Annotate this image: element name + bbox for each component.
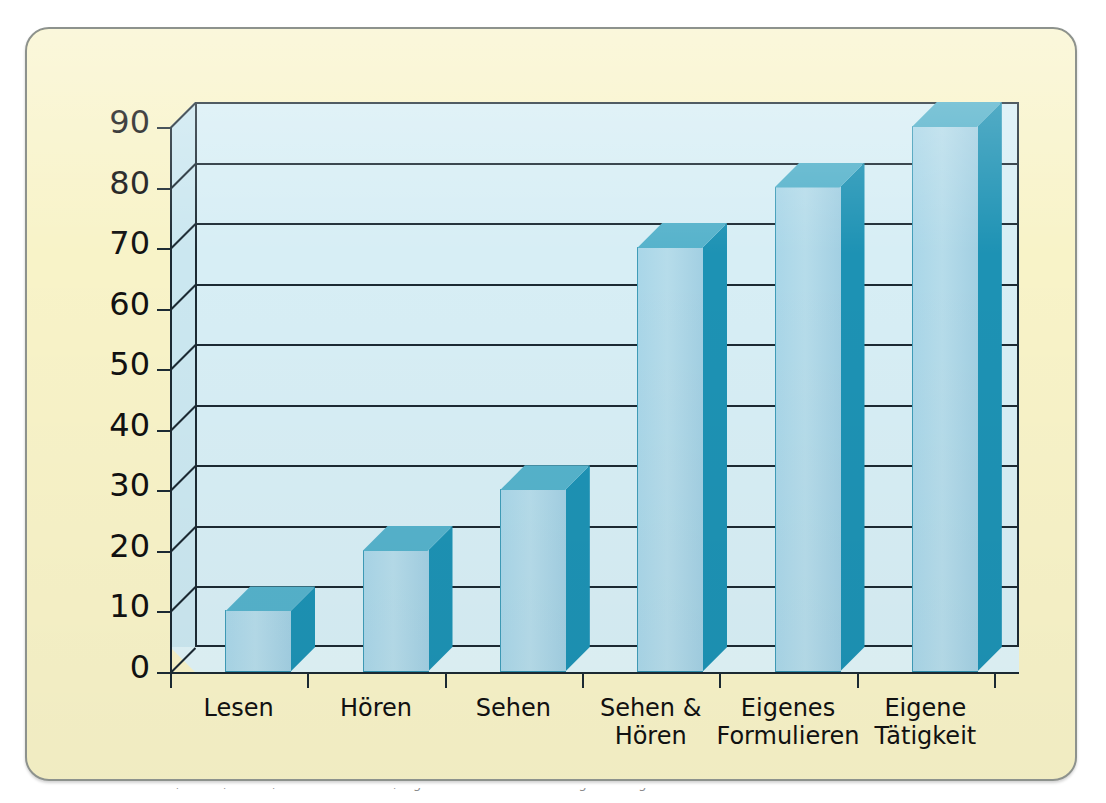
y-axis-tick-label: 80	[45, 167, 150, 199]
bar-side-face	[428, 526, 453, 672]
y-axis-tick	[157, 369, 170, 371]
gridline	[195, 284, 1019, 286]
y-axis-tick	[157, 490, 170, 492]
bar-front-face	[225, 610, 291, 672]
bar-column	[912, 102, 977, 672]
y-axis-line	[170, 127, 172, 672]
bar-side-face	[840, 163, 865, 672]
y-axis-tick-label: 40	[45, 409, 150, 441]
y-axis-tick-label: 70	[45, 227, 150, 259]
y-axis-tick	[157, 127, 170, 129]
bar-column	[500, 465, 565, 672]
bar-side-face	[565, 465, 590, 672]
y-axis-tick	[157, 430, 170, 432]
x-axis-tick	[582, 672, 584, 688]
x-axis-category-label: Hören	[297, 694, 454, 722]
figure-card: 0102030405060708090 LesenHörenSehenSehen…	[25, 27, 1077, 781]
y-axis-tick-label: 30	[45, 469, 150, 501]
bar-front-face	[500, 489, 566, 672]
y-axis-tick	[157, 672, 170, 674]
chart-back-wall	[195, 102, 1019, 647]
y-axis-tick-label: 0	[45, 651, 150, 683]
bar-side-face	[702, 223, 727, 672]
bar-column	[637, 223, 702, 672]
x-axis-category-label: Sehen & Hören	[572, 694, 729, 751]
x-axis-category-label: Lesen	[160, 694, 317, 722]
x-axis-tick	[170, 672, 172, 688]
y-axis-tick	[157, 551, 170, 553]
y-axis-tick	[157, 188, 170, 190]
y-axis-tick	[157, 248, 170, 250]
chart-plot-area: 0102030405060708090 LesenHörenSehenSehen…	[195, 102, 1019, 647]
bar-front-face	[775, 187, 841, 672]
x-axis-tick	[994, 672, 996, 688]
bar-column	[225, 586, 290, 672]
gridline	[195, 163, 1019, 165]
x-axis-tick	[445, 672, 447, 688]
clipped-caption-strip: Lernen durch Lesen, Hören, Sehen, Sehen …	[0, 788, 1106, 803]
x-axis-category-label: Eigenes Formulieren	[709, 694, 866, 751]
gridline	[195, 405, 1019, 407]
gridline	[195, 223, 1019, 225]
y-axis-tick-label: 60	[45, 288, 150, 320]
x-axis-tick	[857, 672, 859, 688]
y-axis-tick-label: 10	[45, 590, 150, 622]
bar-column	[363, 526, 428, 672]
x-axis-tick	[307, 672, 309, 688]
gridline	[195, 465, 1019, 467]
x-axis-line	[170, 672, 1019, 674]
gridline	[195, 344, 1019, 346]
bar-column	[775, 163, 840, 672]
gridline	[195, 526, 1019, 528]
x-axis-category-label: Sehen	[435, 694, 592, 722]
bar-front-face	[363, 550, 429, 672]
x-axis-tick	[719, 672, 721, 688]
y-axis-tick-label: 20	[45, 530, 150, 562]
y-axis-tick-label: 50	[45, 348, 150, 380]
gridline	[195, 102, 1019, 104]
gridline	[195, 586, 1019, 588]
x-axis-category-label: Eigene Tätigkeit	[847, 694, 1004, 751]
y-axis-tick-label: 90	[45, 106, 150, 138]
y-axis-tick	[157, 309, 170, 311]
caption-text: Lernen durch Lesen, Hören, Sehen, Sehen …	[48, 788, 1068, 791]
bar-front-face	[637, 247, 703, 672]
y-axis-tick	[157, 611, 170, 613]
bar-front-face	[912, 126, 978, 672]
bar-side-face	[977, 102, 1002, 672]
